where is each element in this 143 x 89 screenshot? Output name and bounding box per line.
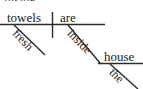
word-are: are xyxy=(60,11,76,24)
word-towels: towels xyxy=(7,11,41,24)
sentence-diagram: inside towels are fresh inside house the xyxy=(0,0,143,89)
word-house: house xyxy=(104,50,134,63)
